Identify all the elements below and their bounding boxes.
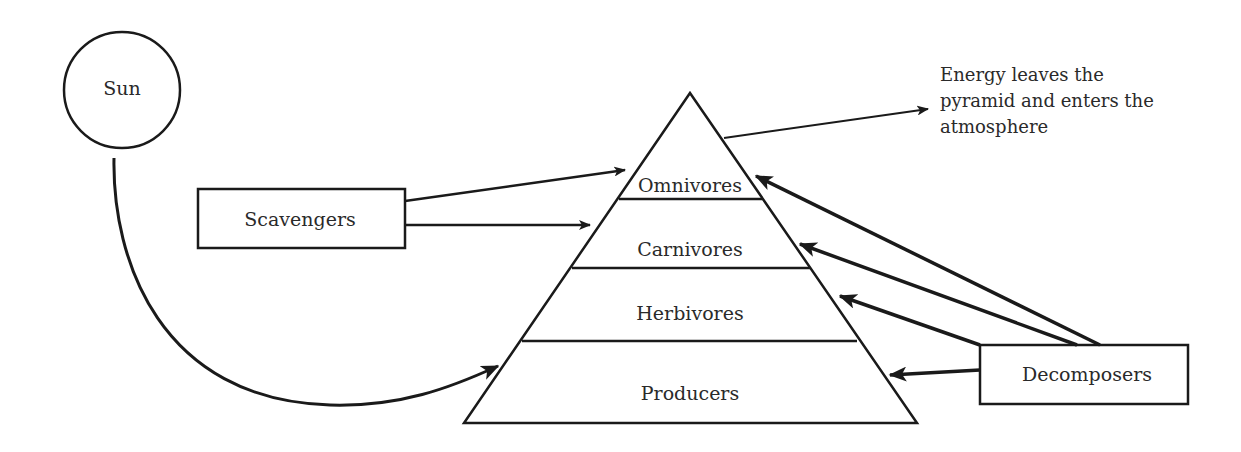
pyramid-level-producers: Producers bbox=[641, 384, 739, 403]
decomposers-to-producers-arrow bbox=[890, 370, 980, 375]
decomposers-to-omnivores-arrow bbox=[756, 176, 1100, 345]
energy-leaves-annotation: Energy leaves the pyramid and enters the… bbox=[940, 62, 1200, 140]
annotation-line-2: pyramid and enters the bbox=[940, 88, 1200, 114]
pyramid-level-omnivores: Omnivores bbox=[638, 176, 742, 195]
energy-pyramid-diagram: Sun Scavengers Decomposers Omnivores Car… bbox=[0, 0, 1241, 452]
annotation-line-3: atmosphere bbox=[940, 114, 1200, 140]
decomposers-label: Decomposers bbox=[1022, 365, 1152, 384]
sun-label: Sun bbox=[103, 79, 141, 98]
pyramid-level-carnivores: Carnivores bbox=[637, 240, 743, 259]
annotation-line-1: Energy leaves the bbox=[940, 62, 1200, 88]
pyramid-level-herbivores: Herbivores bbox=[636, 304, 743, 323]
scavengers-label: Scavengers bbox=[244, 210, 355, 229]
scavengers-to-omnivores-arrow bbox=[405, 170, 625, 201]
energy-leaves-arrow bbox=[724, 109, 928, 138]
